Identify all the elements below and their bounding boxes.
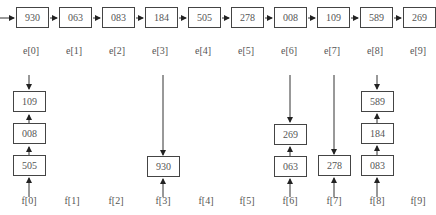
- e-label-8: e[8]: [360, 45, 390, 56]
- list-node-e7: 109: [317, 7, 350, 28]
- list-node-e5: 278: [231, 7, 264, 28]
- e-label-0: e[0]: [16, 45, 46, 56]
- e-label-1: e[1]: [59, 45, 89, 56]
- f-label-9: f[9]: [403, 195, 433, 206]
- list-node-e0: 930: [16, 7, 49, 28]
- list-node-e3: 184: [145, 7, 178, 28]
- bucket-f0-node-bottom: 505: [13, 155, 46, 176]
- bucket-f6-node-bottom: 063: [274, 156, 307, 177]
- e-label-3: e[3]: [145, 45, 175, 56]
- e-label-6: e[6]: [274, 45, 304, 56]
- f-label-7: f[7]: [319, 195, 349, 206]
- bucket-f0-node-mid: 008: [13, 123, 46, 144]
- bucket-f0-node-top: 109: [13, 91, 46, 112]
- list-node-e6: 008: [274, 7, 307, 28]
- f-label-4: f[4]: [191, 195, 221, 206]
- f-label-0: f[0]: [14, 195, 44, 206]
- bucket-f8-node-mid: 184: [361, 123, 394, 144]
- f-label-1: f[1]: [57, 195, 87, 206]
- bucket-f3-node: 930: [147, 156, 180, 177]
- bucket-f6-node-top: 269: [274, 124, 307, 145]
- e-label-9: e[9]: [403, 45, 433, 56]
- list-node-e9: 269: [403, 7, 436, 28]
- list-node-e4: 505: [188, 7, 221, 28]
- f-label-6: f[6]: [275, 195, 305, 206]
- list-node-e8: 589: [360, 7, 393, 28]
- bucket-f8-node-bottom: 083: [361, 155, 394, 176]
- bucket-f8-node-top: 589: [361, 91, 394, 112]
- e-label-2: e[2]: [102, 45, 132, 56]
- f-label-3: f[3]: [148, 195, 178, 206]
- list-node-e2: 083: [102, 7, 135, 28]
- e-label-5: e[5]: [231, 45, 261, 56]
- f-label-2: f[2]: [101, 195, 131, 206]
- f-label-5: f[5]: [232, 195, 262, 206]
- e-label-7: e[7]: [317, 45, 347, 56]
- f-label-8: f[8]: [362, 195, 392, 206]
- list-node-e1: 063: [59, 7, 92, 28]
- bucket-f7-node: 278: [318, 155, 351, 176]
- e-label-4: e[4]: [188, 45, 218, 56]
